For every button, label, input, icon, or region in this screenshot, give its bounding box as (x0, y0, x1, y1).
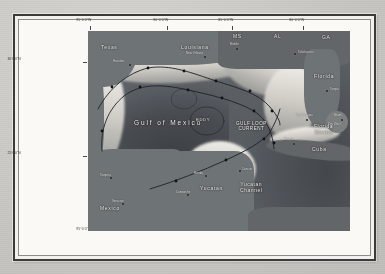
page-top-mark: · (189, 3, 190, 7)
lon-tick-mark-2 (167, 26, 168, 30)
lon-tick-label-1: 95°0'0"W (76, 19, 91, 23)
city-dot-merida (205, 175, 207, 177)
lon-tick-mark-3 (232, 26, 233, 30)
trajectory-path-yucatan-inflow (150, 134, 269, 189)
city-dot-tallahassee (294, 53, 296, 55)
city-dot-new-orleans (204, 56, 206, 58)
lat-tick-label-2: 25°0'0"N (7, 152, 20, 156)
page-bottom-mark: · (189, 266, 190, 270)
gulf-of-mexico-map[interactable]: Houston New Orleans Mobile Tallahassee T… (88, 31, 350, 231)
trajectory-path-north (98, 67, 280, 125)
lat-tick-mark-1 (83, 62, 87, 63)
lat-tick-mark-2 (83, 156, 87, 157)
lon-tick-mark-4 (303, 26, 304, 30)
drifter-trajectory-overlay (88, 31, 350, 231)
city-dot-campeche (187, 194, 189, 196)
lon-tick-label-4: 80°0'0"W (289, 19, 304, 23)
eddy-ring (190, 107, 224, 135)
city-dot-cancun (239, 170, 241, 172)
city-dot-veracruz (122, 203, 124, 205)
city-dot-dry-tortugas (306, 119, 308, 121)
lat-tick-label-1: 30°0'0"N (7, 58, 20, 62)
trajectory-path-west-loop (102, 86, 274, 151)
city-dot-mobile (236, 48, 238, 50)
city-dot-houston (129, 64, 131, 66)
city-dot-miami (341, 119, 343, 121)
lon-tick-label-2: 90°0'0"W (153, 19, 168, 23)
city-dot-tampico (110, 177, 112, 179)
eddy-ring-secondary (171, 89, 197, 109)
city-dot-havana (293, 143, 295, 145)
city-dot-tampa (326, 90, 328, 92)
trajectory-markers (101, 67, 276, 183)
lon-tick-mark-1 (90, 26, 91, 30)
lon-tick-label-3: 85°0'0"W (218, 19, 233, 23)
